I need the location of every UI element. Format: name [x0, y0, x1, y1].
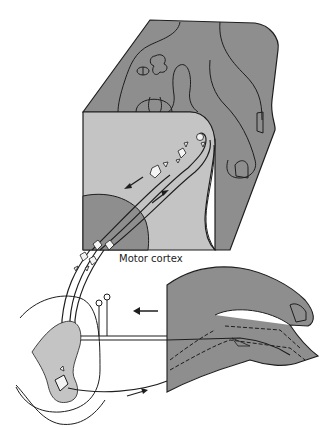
motor-cortex-label: Motor cortex — [119, 253, 183, 264]
sensory-input-arrow-icon — [133, 307, 158, 315]
descending-pathway — [62, 250, 180, 395]
motor-pathway-diagram: Motor cortex — [0, 0, 329, 427]
motor-cortex-section — [83, 112, 215, 250]
finger-section — [167, 267, 318, 392]
